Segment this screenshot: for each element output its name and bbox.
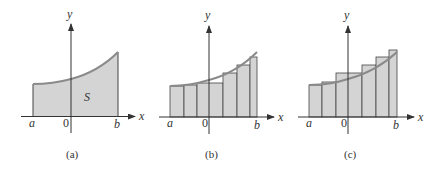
a-label: a (306, 116, 312, 130)
origin-label: 0 (341, 116, 347, 130)
rect-5 (237, 65, 250, 117)
a-label: a (167, 116, 173, 130)
rect-1 (170, 86, 184, 117)
rect-3 (197, 83, 223, 117)
origin-label: 0 (63, 116, 69, 130)
panel-a: y x a 0 b S (a) (21, 7, 145, 161)
x-axis-label: x (138, 109, 145, 123)
b-label: b (114, 117, 120, 131)
a-label: a (29, 116, 35, 130)
riemann-sum-figure: y x a 0 b S (a) y x a 0 b (b) (0, 0, 442, 170)
caption-b: (b) (205, 148, 218, 161)
x-axis-label: x (417, 110, 424, 124)
y-axis-label: y (204, 8, 211, 22)
x-axis-label: x (277, 110, 284, 124)
rect-2 (184, 85, 197, 117)
y-axis-label: y (66, 7, 73, 21)
caption-c: (c) (344, 148, 357, 161)
lower-rectangles (170, 57, 257, 117)
b-label: b (393, 118, 399, 132)
rect-6 (389, 50, 397, 117)
b-label: b (254, 118, 260, 132)
panel-b: y x a 0 b (b) (159, 8, 284, 161)
panel-c: y x a 0 b (c) (298, 8, 424, 161)
caption-a: (a) (66, 148, 79, 161)
region-label: S (84, 90, 90, 104)
origin-label: 0 (202, 116, 208, 130)
rect-6 (250, 57, 257, 117)
rect-2 (322, 82, 336, 117)
rect-4 (223, 73, 237, 117)
rect-1 (309, 85, 322, 117)
y-axis-label: y (343, 8, 350, 22)
